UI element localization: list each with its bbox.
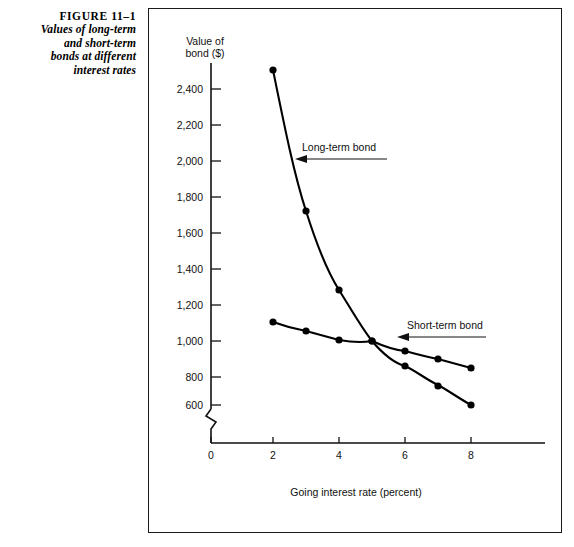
x-tick-label-4: 4 [336,449,342,461]
long-term-point-x7 [434,382,441,389]
x-tick-label-8: 8 [468,449,474,461]
y-tick-label-1000: 1,000 [177,335,203,347]
y-axis-title-line-1: Value of [186,35,224,47]
long-term-point-x6 [401,362,408,369]
y-tick-label-1400: 1,400 [177,263,203,275]
long-term-bond-label: Long-term bond [302,141,376,153]
short-term-point-x6 [401,347,408,354]
figure-caption: FIGURE 11–1 Values of long-term and shor… [8,10,136,77]
long-term-arrow-icon [295,155,307,163]
short-term-arrow-icon [397,333,409,341]
chart-svg: Value of bond ($) 2,400 [149,9,563,534]
long-term-bond-series [269,66,474,408]
y-tick-label-800: 800 [185,371,203,383]
long-term-point-x2 [269,66,276,73]
y-tick-label-1800: 1,800 [177,191,203,203]
short-term-point-x8 [467,364,474,371]
y-tick-label-600: 600 [185,399,203,411]
long-term-bond-curve [273,70,471,405]
long-term-point-x4 [335,286,342,293]
y-tick-label-2400: 2,400 [177,83,203,95]
short-term-point-x2 [269,318,276,325]
figure-caption-line-1: Values of long-term [8,23,136,36]
figure-caption-line-2: and short-term [8,37,136,50]
long-term-bond-annotation: Long-term bond [295,141,387,163]
figure-caption-line-4: interest rates [8,64,136,77]
figure-number: FIGURE 11–1 [8,10,136,23]
short-term-point-x3 [302,327,309,334]
x-tick-label-2: 2 [270,449,276,461]
figure-frame: Value of bond ($) 2,400 [148,8,562,533]
long-term-point-x8 [467,401,474,408]
x-axis-title: Going interest rate (percent) [290,486,421,498]
x-tick-label-0: 0 [208,449,214,461]
line-chart: Value of bond ($) 2,400 [149,9,563,534]
figure-caption-line-3: bonds at different [8,50,136,63]
long-term-point-x3 [302,207,309,214]
x-tick-label-6: 6 [402,449,408,461]
y-tick-label-1600: 1,600 [177,227,203,239]
y-tick-label-2000: 2,000 [177,155,203,167]
short-term-bond-annotation: Short-term bond [397,319,486,341]
y-tick-label-2200: 2,200 [177,119,203,131]
short-term-point-x4 [335,336,342,343]
y-axis: 2,400 2,200 2,000 1,800 1,600 1,400 1,20… [177,63,221,443]
x-axis: 0 2 4 6 8 Going interest rate (percent) [208,437,545,498]
short-term-point-x7 [434,355,441,362]
short-term-bond-label: Short-term bond [407,319,483,331]
y-tick-label-1200: 1,200 [177,299,203,311]
short-term-point-x5 [368,337,375,344]
y-axis-title-line-2: bond ($) [185,47,224,59]
